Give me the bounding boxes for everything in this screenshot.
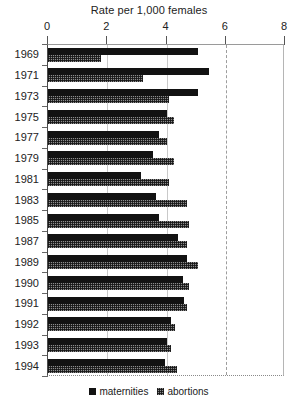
y-axis-label-1973: 1973 [0, 90, 39, 102]
y-axis-label-1990: 1990 [0, 277, 39, 289]
bar-abortions-1990 [48, 283, 189, 290]
bar-abortions-1977 [48, 138, 167, 145]
x-tick-mark-8 [284, 36, 285, 45]
y-axis-label-1977: 1977 [0, 131, 39, 143]
bar-abortions-1973 [48, 96, 169, 103]
x-tick-label-4: 4 [162, 20, 168, 32]
bar-abortions-1987 [48, 241, 187, 248]
bar-maternities-1994 [48, 359, 165, 366]
bar-abortions-1993 [48, 345, 171, 352]
bar-abortions-1975 [48, 117, 174, 124]
x-tick-label-8: 8 [281, 20, 287, 32]
bar-maternities-1981 [48, 172, 141, 179]
bar-maternities-1979 [48, 151, 153, 158]
y-axis-label-1992: 1992 [0, 318, 39, 330]
chart-container: Rate per 1,000 females 02468 19691971197… [0, 0, 298, 408]
bar-abortions-1985 [48, 221, 189, 228]
x-tick-label-6: 6 [222, 20, 228, 32]
y-axis-label-1985: 1985 [0, 214, 39, 226]
y-axis-label-1983: 1983 [0, 194, 39, 206]
y-axis-label-1975: 1975 [0, 111, 39, 123]
legend-swatch-maternities [89, 388, 96, 395]
chart-title: Rate per 1,000 females [0, 4, 298, 16]
bar-abortions-1994 [48, 366, 177, 373]
bar-maternities-1989 [48, 255, 187, 262]
bar-maternities-1992 [48, 317, 171, 324]
bar-abortions-1969 [48, 55, 101, 62]
y-axis-label-1991: 1991 [0, 297, 39, 309]
bar-abortions-1989 [48, 262, 198, 269]
bar-maternities-1971 [48, 68, 209, 75]
y-axis-label-1971: 1971 [0, 69, 39, 81]
chart-legend: maternitiesabortions [0, 386, 298, 397]
bar-abortions-1981 [48, 179, 169, 186]
bar-maternities-1993 [48, 338, 167, 345]
bar-maternities-1975 [48, 110, 167, 117]
legend-label-maternities: maternities [99, 386, 148, 397]
legend-item-abortions[interactable]: abortions [157, 386, 208, 397]
reference-line-6 [226, 45, 227, 375]
y-axis-label-1969: 1969 [0, 48, 39, 60]
bar-maternities-1969 [48, 48, 198, 55]
bar-maternities-1991 [48, 297, 184, 304]
y-axis-label-1979: 1979 [0, 152, 39, 164]
x-tick-label-0: 0 [44, 20, 50, 32]
bar-abortions-1979 [48, 158, 174, 165]
bar-maternities-1987 [48, 234, 178, 241]
y-axis-label-1989: 1989 [0, 256, 39, 268]
y-axis-label-1987: 1987 [0, 235, 39, 247]
bar-maternities-1977 [48, 131, 159, 138]
bar-maternities-1985 [48, 214, 159, 221]
plot-area [47, 44, 284, 376]
bar-maternities-1983 [48, 193, 156, 200]
y-axis-label-1994: 1994 [0, 360, 39, 372]
bar-maternities-1990 [48, 276, 183, 283]
bar-abortions-1971 [48, 75, 143, 82]
legend-label-abortions: abortions [167, 386, 208, 397]
legend-swatch-abortions [157, 388, 164, 395]
x-tick-label-2: 2 [103, 20, 109, 32]
y-tick-mark-end [42, 376, 48, 377]
bar-abortions-1991 [48, 304, 187, 311]
y-axis-label-1981: 1981 [0, 173, 39, 185]
legend-item-maternities[interactable]: maternities [89, 386, 148, 397]
y-axis-label-1993: 1993 [0, 339, 39, 351]
bar-maternities-1973 [48, 89, 198, 96]
bar-abortions-1983 [48, 200, 187, 207]
bar-abortions-1992 [48, 324, 175, 331]
